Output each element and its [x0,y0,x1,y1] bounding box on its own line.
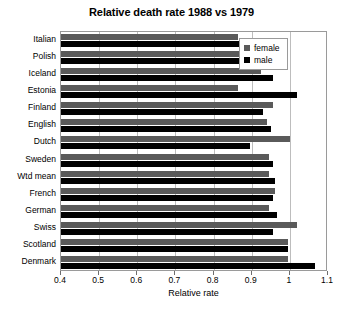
bar-group [61,222,326,239]
bar-group [61,171,326,188]
y-axis-label: German [0,205,56,215]
x-tick-label: 1.1 [321,275,333,285]
bar-female [61,188,275,194]
y-axis-label: Italian [0,34,56,44]
chart-legend: femalemale [239,38,288,70]
bar-group [61,154,326,171]
bar-female [61,171,269,177]
bar-male [61,195,273,201]
y-axis-category-labels: ItalianPolishIcelandEstoniaFinlandEnglis… [0,31,56,271]
x-axis-ticks: 0.40.50.60.70.80.911.1 [60,271,327,285]
legend-label: female [254,43,280,53]
x-axis-title: Relative rate [60,288,327,298]
y-axis-label: Estonia [0,85,56,95]
bar-group [61,68,326,85]
bar-group [61,136,326,153]
y-axis-label: French [0,188,56,198]
bar-female [61,205,269,211]
legend-item-male: male [244,54,280,66]
legend-swatch-icon [244,45,250,51]
x-tick-label: 0.8 [207,275,219,285]
x-tick-label: 0.9 [245,275,257,285]
bar-group [61,102,326,119]
y-axis-label: Polish [0,51,56,61]
x-tick-label: 1 [286,275,291,285]
bar-male [61,109,263,115]
bar-male [61,229,273,235]
y-axis-label: Swiss [0,222,56,232]
y-axis-label: English [0,119,56,129]
bar-female [61,102,273,108]
y-axis-label: Denmark [0,256,56,266]
x-tick-label: 0.5 [92,275,104,285]
bar-female [61,154,269,160]
x-tick-label: 0.6 [130,275,142,285]
bar-male [61,161,273,167]
bar-female [61,51,256,57]
x-tick-label: 0.7 [169,275,181,285]
x-tick-label: 0.4 [54,275,66,285]
chart-container: Relative death rate 1988 vs 1979 Italian… [0,0,343,315]
y-axis-label: Sweden [0,154,56,164]
bar-male [61,246,288,252]
legend-label: male [254,55,272,65]
bar-group [61,239,326,256]
bar-male [61,92,297,98]
bar-female [61,34,238,40]
chart-title: Relative death rate 1988 vs 1979 [0,6,343,18]
bar-female [61,256,288,262]
bar-male [61,143,250,149]
bar-female [61,68,261,74]
bar-male [61,41,246,47]
bar-group [61,85,326,102]
bar-group [61,205,326,222]
bar-female [61,85,238,91]
bar-group [61,188,326,205]
bar-male [61,58,261,64]
bar-group [61,119,326,136]
bar-male [61,75,273,81]
y-axis-label: Dutch [0,136,56,146]
bar-male [61,126,271,132]
bar-female [61,239,288,245]
bar-male [61,263,315,269]
y-axis-label: Finland [0,102,56,112]
legend-item-female: female [244,42,280,54]
bar-group [61,256,326,271]
bar-female [61,222,297,228]
y-axis-label: Iceland [0,68,56,78]
legend-swatch-icon [244,57,250,63]
bar-female [61,119,267,125]
bar-female [61,136,290,142]
y-axis-label: Scotland [0,239,56,249]
bar-male [61,212,277,218]
y-axis-label: Wtd mean [0,171,56,181]
bar-male [61,178,275,184]
